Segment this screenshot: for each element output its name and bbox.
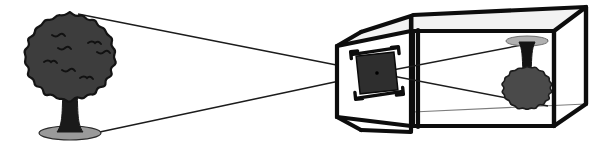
image-canopy-icon — [502, 67, 552, 110]
diagram-canvas — [0, 0, 594, 147]
light-ray-group — [78, 14, 377, 133]
tree-canopy-icon — [25, 12, 116, 102]
box-outline-edge — [361, 130, 411, 132]
ray-from-canopy-top-icon — [78, 14, 377, 73]
ray-from-tree-base-icon — [95, 73, 377, 133]
tree-object — [25, 12, 116, 140]
camera-obscura-diagram — [0, 0, 594, 147]
